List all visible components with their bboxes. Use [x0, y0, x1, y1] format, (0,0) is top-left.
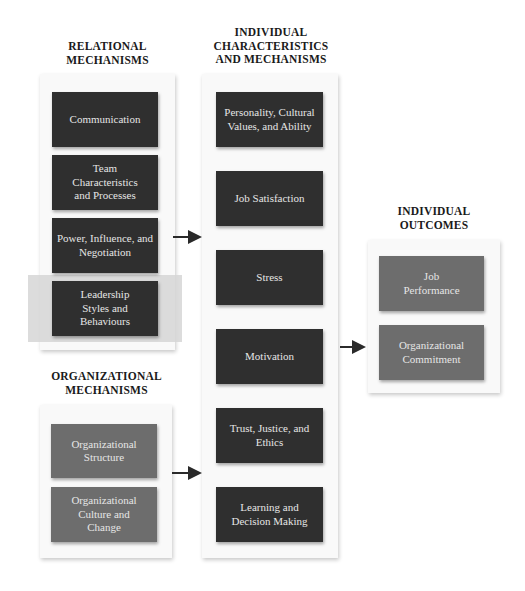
box-label: Power, Influence, and Negotiation [56, 232, 154, 259]
box-label: Trust, Justice, and Ethics [228, 422, 311, 449]
box-team-characteristics: Team Characteristics and Processes [52, 155, 158, 210]
heading-relational-mechanisms: RELATIONAL MECHANISMS [40, 40, 175, 67]
heading-line: ORGANIZATIONAL [34, 370, 179, 384]
box-organizational-commitment: Organizational Commitment [379, 325, 484, 380]
box-stress: Stress [216, 250, 323, 305]
box-label: Communication [70, 113, 141, 127]
heading-line: OUTCOMES [368, 219, 500, 233]
heading-individual-characteristics: INDIVIDUAL CHARACTERISTICS AND MECHANISM… [196, 26, 346, 67]
box-organizational-culture: Organizational Culture and Change [51, 487, 157, 542]
heading-organizational-mechanisms: ORGANIZATIONAL MECHANISMS [34, 370, 179, 397]
box-label: Learning and Decision Making [220, 501, 319, 528]
box-label: Organizational Structure [65, 438, 143, 465]
box-job-performance: Job Performance [379, 256, 484, 311]
heading-line: INDIVIDUAL [196, 26, 346, 40]
box-label: Organizational Commitment [383, 339, 480, 366]
box-label: Team Characteristics and Processes [66, 162, 144, 203]
box-label: Motivation [245, 350, 294, 364]
box-label: Job Performance [395, 270, 468, 297]
box-leadership: Leadership Styles and Behaviours [52, 281, 158, 336]
heading-line: RELATIONAL [40, 40, 175, 54]
box-label: Organizational Culture and Change [65, 494, 143, 535]
box-label: Personality, Cultural Values, and Abilit… [220, 106, 319, 133]
box-personality: Personality, Cultural Values, and Abilit… [216, 92, 323, 147]
heading-line: INDIVIDUAL [368, 205, 500, 219]
heading-line: MECHANISMS [34, 384, 179, 398]
box-learning-decision-making: Learning and Decision Making [216, 487, 323, 542]
box-trust-justice-ethics: Trust, Justice, and Ethics [216, 408, 323, 463]
heading-line: MECHANISMS [40, 54, 175, 68]
box-label: Job Satisfaction [235, 192, 305, 206]
box-organizational-structure: Organizational Structure [51, 424, 157, 478]
heading-individual-outcomes: INDIVIDUAL OUTCOMES [368, 205, 500, 232]
box-power-influence: Power, Influence, and Negotiation [52, 218, 158, 273]
box-motivation: Motivation [216, 329, 323, 384]
box-job-satisfaction: Job Satisfaction [216, 171, 323, 226]
heading-line: CHARACTERISTICS [196, 40, 346, 54]
arrow-organizational-to-individual [172, 472, 200, 474]
heading-line: AND MECHANISMS [196, 53, 346, 67]
box-label: Leadership Styles and Behaviours [70, 288, 140, 329]
box-communication: Communication [52, 92, 158, 147]
arrow-relational-to-individual [173, 236, 200, 238]
arrow-individual-to-outcomes [340, 346, 364, 348]
box-label: Stress [256, 271, 282, 285]
